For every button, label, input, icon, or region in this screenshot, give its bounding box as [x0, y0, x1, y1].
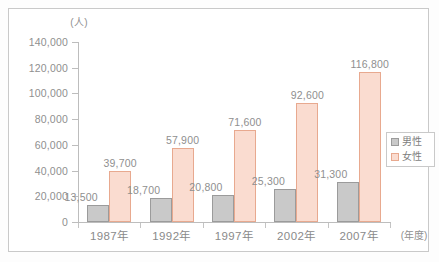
- x-axis-tick: [203, 223, 204, 228]
- bar-chart-figure: (人) 140,000120,000100,00080,00060,00040,…: [0, 0, 439, 262]
- bar-male-1992年: [150, 198, 172, 222]
- bar-value-label: 92,600: [284, 90, 330, 101]
- bar-value-label: 31,300: [308, 169, 354, 180]
- x-axis-tick: [78, 223, 79, 228]
- y-axis-tick-label: 140,000: [6, 37, 68, 48]
- y-axis-tick-label: 60,000: [6, 140, 68, 151]
- chart-legend: 男性女性: [386, 132, 435, 167]
- x-axis-category-label: 1992年: [140, 231, 202, 243]
- y-axis-tick-label: 100,000: [6, 88, 68, 99]
- x-axis-tick: [390, 223, 391, 228]
- bar-value-label: 39,700: [97, 158, 143, 169]
- x-axis-category-label: 1997年: [203, 231, 265, 243]
- x-axis-tick: [265, 223, 266, 228]
- x-axis-line: [78, 222, 391, 223]
- x-axis-category-label: 2002年: [265, 231, 327, 243]
- legend-swatch-icon: [391, 138, 399, 146]
- y-axis-tick-label: 120,000: [6, 63, 68, 74]
- y-axis-unit-label: (人): [44, 14, 114, 29]
- x-axis-category-label: 2007年: [328, 231, 390, 243]
- x-axis-tick: [328, 223, 329, 228]
- bar-value-label: 57,900: [160, 135, 206, 146]
- legend-item-label: 女性: [402, 152, 422, 162]
- y-axis-tick-label: 0: [6, 217, 68, 228]
- legend-swatch-icon: [391, 153, 399, 161]
- bar-male-2002年: [274, 189, 296, 222]
- bar-female-2002年: [296, 103, 318, 222]
- legend-item-male: 男性: [391, 136, 431, 148]
- bar-female-1987年: [109, 171, 131, 222]
- bar-value-label: 71,600: [222, 117, 268, 128]
- bar-value-label: 116,800: [347, 59, 393, 70]
- plot-area: 13,50039,70018,70057,90020,80071,60025,3…: [78, 42, 390, 222]
- legend-item-female: 女性: [391, 151, 431, 163]
- bar-value-label: 25,300: [245, 176, 291, 187]
- y-axis-tick-label: 80,000: [6, 114, 68, 125]
- x-axis-tick: [140, 223, 141, 228]
- bar-value-label: 18,700: [121, 185, 167, 196]
- bar-female-2007年: [359, 72, 381, 222]
- legend-item-label: 男性: [402, 137, 422, 147]
- bar-value-label: 20,800: [183, 182, 229, 193]
- bar-value-label: 13,500: [58, 192, 104, 203]
- bar-male-2007年: [337, 182, 359, 222]
- bar-male-1997年: [212, 195, 234, 222]
- x-axis-category-label: 1987年: [78, 231, 140, 243]
- y-axis-tick-label: 40,000: [6, 166, 68, 177]
- x-axis-unit-label: (年度): [392, 231, 436, 241]
- bar-male-1987年: [87, 205, 109, 222]
